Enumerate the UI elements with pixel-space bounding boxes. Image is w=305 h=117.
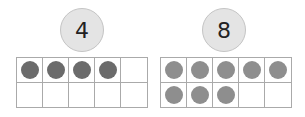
counter-dot — [191, 61, 209, 79]
ten-frame-cell — [121, 83, 147, 108]
ten-frame-cell — [43, 58, 69, 83]
ten-frame-cell — [265, 58, 291, 83]
number-label: 8 — [217, 18, 231, 43]
ten-frame-cell — [161, 83, 187, 108]
number-label: 4 — [75, 18, 89, 43]
counter-dot — [191, 86, 209, 104]
ten-frame-cell — [239, 83, 265, 108]
counter-dot — [243, 61, 261, 79]
counter-dot — [99, 61, 117, 79]
counter-dot — [165, 61, 183, 79]
ten-frame-cell — [121, 58, 147, 83]
ten-frame-cell — [69, 83, 95, 108]
counter-dot — [217, 61, 235, 79]
number-badge-right: 8 — [202, 8, 246, 52]
ten-frame-cell — [95, 83, 121, 108]
ten-frame-right — [160, 57, 292, 108]
counter-dot — [73, 61, 91, 79]
ten-frame-cell — [213, 83, 239, 108]
ten-frame-cell — [69, 58, 95, 83]
ten-frame-cell — [239, 58, 265, 83]
ten-frame-left — [16, 57, 148, 108]
ten-frame-cell — [187, 58, 213, 83]
ten-frame-cell — [187, 83, 213, 108]
number-badge-left: 4 — [60, 8, 104, 52]
ten-frame-cell — [17, 58, 43, 83]
ten-frame-cell — [213, 58, 239, 83]
ten-frame-cell — [43, 83, 69, 108]
ten-frame-cell — [161, 58, 187, 83]
counter-dot — [269, 61, 287, 79]
counter-dot — [165, 86, 183, 104]
ten-frame-cell — [265, 83, 291, 108]
ten-frame-cell — [95, 58, 121, 83]
counter-dot — [21, 61, 39, 79]
counter-dot — [217, 86, 235, 104]
counter-dot — [47, 61, 65, 79]
ten-frame-cell — [17, 83, 43, 108]
